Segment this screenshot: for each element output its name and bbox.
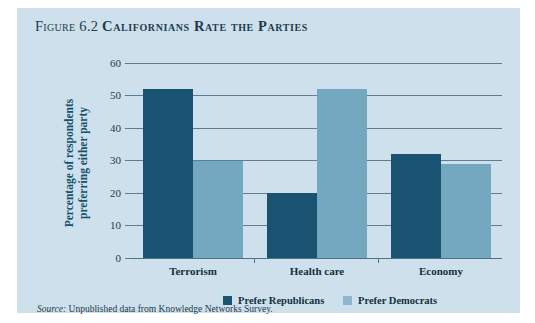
x-axis-line <box>126 258 502 259</box>
ytick-label-0: 0 <box>116 252 122 264</box>
xaxis-label-economy: Economy <box>419 265 463 277</box>
legend-item-democrats: Prefer Democrats <box>343 290 437 304</box>
ytick-mark-60 <box>125 63 130 64</box>
ytick-mark-40 <box>125 128 130 129</box>
figure-title: Figure 6.2 Californians Rate the Parties <box>35 18 495 36</box>
bar-economy-democrats <box>441 164 491 258</box>
ytick-mark-0 <box>125 258 130 259</box>
bar-terrorism-republicans <box>143 89 193 258</box>
bar-healthcare-republicans <box>267 193 317 258</box>
gridline-60 <box>130 63 502 64</box>
xaxis-label-terrorism: Terrorism <box>169 265 217 277</box>
xtick-mark-2 <box>378 258 379 263</box>
ytick-label-50: 50 <box>110 89 121 101</box>
ytick-label-10: 10 <box>110 219 121 231</box>
ytick-mark-30 <box>125 160 130 161</box>
bar-healthcare-democrats <box>317 89 367 258</box>
plot-area: 60 50 40 30 20 10 0 Terrorism Health car… <box>130 63 502 258</box>
y-axis-title: Percentage of respondents preferring eit… <box>63 0 93 70</box>
ytick-mark-10 <box>125 225 130 226</box>
legend-item-republicans: Prefer Republicans <box>223 290 324 304</box>
y-axis-title-line-2: preferring either party <box>77 70 89 256</box>
bar-economy-republicans <box>391 154 441 258</box>
xaxis-label-health-care: Health care <box>290 265 344 277</box>
ytick-label-30: 30 <box>110 154 121 166</box>
ytick-mark-20 <box>125 193 130 194</box>
legend-swatch-democrats-icon <box>343 296 352 305</box>
ytick-label-60: 60 <box>110 57 121 69</box>
ytick-label-40: 40 <box>110 122 121 134</box>
source-note-text: Unpublished data from Knowledge Networks… <box>66 304 273 314</box>
figure-title-text: Californians Rate the Parties <box>102 18 308 34</box>
chart-legend: Prefer Republicans Prefer Democrats <box>130 290 502 304</box>
xtick-mark-1 <box>254 258 255 263</box>
ytick-label-20: 20 <box>110 187 121 199</box>
source-note-lead: Source: <box>37 304 66 314</box>
source-note: Source: Unpublished data from Knowledge … <box>37 304 273 314</box>
ytick-mark-50 <box>125 95 130 96</box>
bar-terrorism-democrats <box>193 161 243 258</box>
figure-panel: Figure 6.2 Californians Rate the Parties… <box>17 8 520 313</box>
y-axis-title-line-1: Percentage of respondents <box>63 70 75 256</box>
legend-label-democrats: Prefer Democrats <box>358 295 437 306</box>
